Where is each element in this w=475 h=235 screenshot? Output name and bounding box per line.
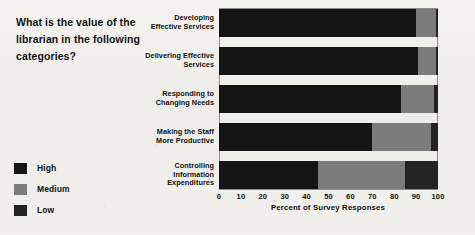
bar-segment-high [219,47,418,75]
x-axis-title: Percent of Survey Responses [271,203,385,212]
bar-segment-low [405,161,438,189]
bar-segment-low [436,47,438,75]
bar-row [219,85,438,113]
x-tick-80: 80 [390,192,399,201]
bar-segment-low [434,85,438,113]
x-tick-10: 10 [237,192,246,201]
bar-segment-high [219,9,416,37]
bar-segment-high [219,85,401,113]
bar-segment-low [436,9,438,37]
bar-row [219,161,438,189]
category-label-4: ControllingInformationExpenditures [104,162,214,188]
category-label-0: DevelopingEffective Services [104,14,214,31]
bar-segment-high [219,161,318,189]
bar-row [219,47,438,75]
category-label-2: Responding toChanging Needs [104,90,214,107]
bar-segment-low [431,123,438,151]
bar-segment-medium [401,85,434,113]
x-tick-40: 40 [302,192,311,201]
x-tick-50: 50 [324,192,333,201]
bar-segment-medium [418,47,436,75]
x-tick-60: 60 [346,192,355,201]
x-tick-90: 90 [412,192,421,201]
category-label-1: Delivering EffectiveServices [104,52,214,69]
category-label-3: Making the StaffMore Productive [104,128,214,145]
bar-row [219,123,438,151]
bar-segment-medium [318,161,406,189]
stacked-bar-chart: DevelopingEffective ServicesDelivering E… [0,0,475,235]
x-tick-30: 30 [280,192,289,201]
bar-segment-medium [372,123,431,151]
x-tick-20: 20 [259,192,268,201]
x-tick-70: 70 [368,192,377,201]
x-tick-100: 100 [432,192,445,201]
page-caption-cutoff [18,228,438,235]
bar-segment-medium [416,9,436,37]
x-tick-0: 0 [217,192,221,201]
bar-segment-high [219,123,372,151]
bar-row [219,9,438,37]
